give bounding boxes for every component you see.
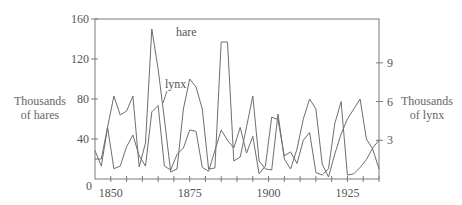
right-axis-title-line1: Thousands (392, 94, 462, 108)
axes: 408012016003691850187519001925 (71, 12, 393, 200)
left-axis-title-line1: Thousands (2, 94, 78, 108)
x-tick-label: 1875 (178, 186, 202, 200)
lynx-line (95, 102, 379, 176)
hare-label: hare (176, 25, 197, 39)
left-axis-title-line2: of hares (2, 108, 78, 122)
lynx-label: lynx (165, 77, 186, 91)
left-tick-label: 40 (77, 132, 89, 146)
x-tick-label: 1925 (335, 186, 359, 200)
left-axis-title: Thousands of hares (2, 94, 78, 122)
hare-line (95, 29, 379, 177)
right-axis-title: Thousands of lynx (392, 94, 462, 122)
left-tick-label: 120 (71, 52, 89, 66)
left-tick-label: 80 (77, 92, 89, 106)
origin-label: 0 (86, 179, 92, 193)
x-tick-label: 1850 (99, 186, 123, 200)
series-lines (95, 29, 379, 177)
x-tick-label: 1900 (257, 186, 281, 200)
left-tick-label: 160 (71, 12, 89, 26)
right-tick-label: 3 (387, 133, 393, 147)
right-tick-label: 9 (387, 56, 393, 70)
plot-frame (95, 19, 379, 179)
lynx-label-pointer (163, 91, 167, 103)
right-axis-title-line2: of lynx (392, 108, 462, 122)
series-labels: harelynx (163, 25, 197, 103)
